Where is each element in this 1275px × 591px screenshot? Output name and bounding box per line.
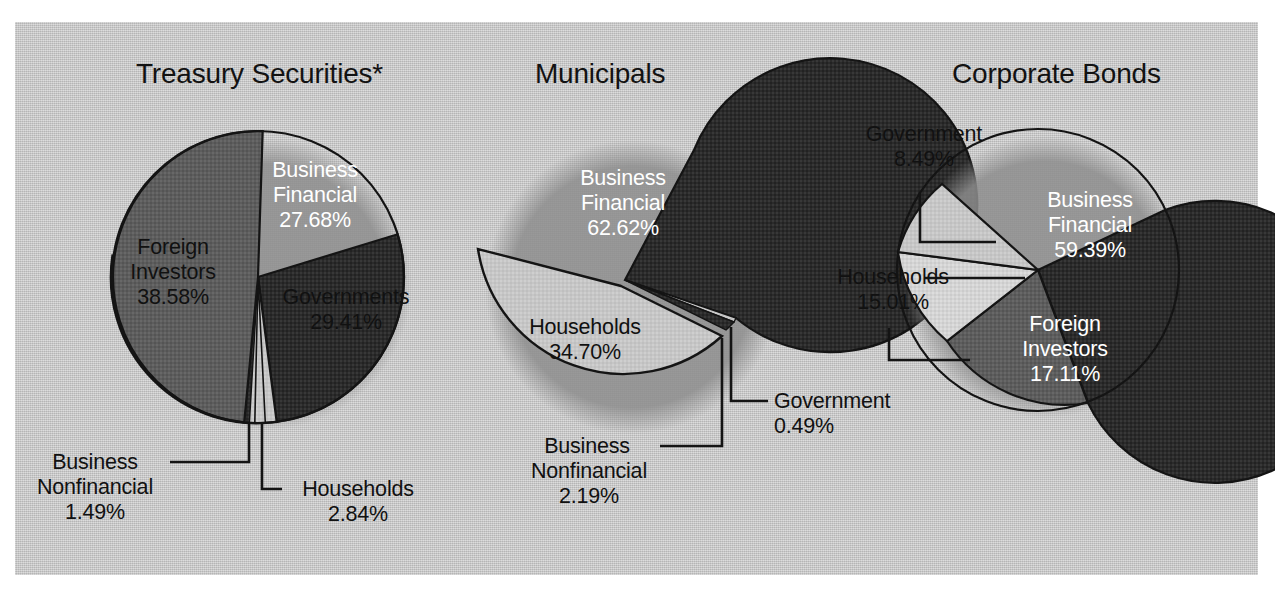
callout-label-value: 2.84% [288, 502, 428, 527]
slice-label-line1: Business [548, 166, 698, 191]
callout-label-line1: Government [844, 122, 1004, 147]
chart-title-municipals: Municipals [535, 58, 725, 90]
callout-label-value: 15.01% [818, 290, 968, 315]
slice-label-line1: Business [240, 158, 390, 183]
slice-label-business-financial: Business Financial 62.62% [548, 166, 698, 241]
callout-label-value: 2.19% [514, 484, 664, 509]
callout-label-households: Households 2.84% [288, 477, 428, 527]
slice-label-business-financial: Business Financial 59.39% [1015, 188, 1165, 263]
callout-label-households: Households 15.01% [818, 265, 968, 315]
callout-label-business-nonfinancial: Business Nonfinancial 1.49% [20, 450, 170, 525]
slice-label-line1: Foreign [1000, 312, 1130, 337]
slice-label-households: Households 34.70% [505, 315, 665, 365]
callout-label-value: 0.49% [774, 414, 944, 439]
chart-title-corporate-bonds: Corporate Bonds [952, 58, 1182, 90]
slice-label-line2: Financial [1015, 213, 1165, 238]
slice-label-governments: Governments 29.41% [266, 285, 426, 335]
slice-label-line2: Financial [548, 191, 698, 216]
chart-title-treasury-securities: Treasury Securities* [136, 58, 386, 90]
callout-label-line2: Nonfinancial [20, 475, 170, 500]
slice-label-line2: Investors [108, 260, 238, 285]
slice-label-value: 59.39% [1015, 238, 1165, 263]
slice-label-value: 62.62% [548, 216, 698, 241]
slice-label-value: 29.41% [266, 310, 426, 335]
slice-label-line1: Households [505, 315, 665, 340]
callout-label-government: Government 0.49% [774, 389, 944, 439]
slice-label-line1: Business [1015, 188, 1165, 213]
callout-label-value: 8.49% [844, 147, 1004, 172]
slice-label-line1: Foreign [108, 235, 238, 260]
figure-canvas: Treasury Securities* Municipals Corporat… [0, 0, 1275, 591]
callout-label-government: Government 8.49% [844, 122, 1004, 172]
slice-label-value: 17.11% [1000, 362, 1130, 387]
callout-label-line2: Nonfinancial [514, 459, 664, 484]
slice-label-foreign-investors: Foreign Investors 38.58% [108, 235, 238, 310]
callout-label-line1: Business [20, 450, 170, 475]
slice-label-value: 34.70% [505, 340, 665, 365]
callout-label-line1: Business [514, 434, 660, 459]
slice-label-line2: Investors [1000, 337, 1130, 362]
slice-label-line1: Governments [266, 285, 426, 310]
slice-label-value: 27.68% [240, 208, 390, 233]
callout-label-line1: Households [818, 265, 968, 290]
callout-label-business-nonfinancial: Business Nonfinancial 2.19% [514, 434, 664, 509]
slice-label-line2: Financial [240, 183, 390, 208]
slice-label-business-financial: Business Financial 27.68% [240, 158, 390, 233]
callout-label-line1: Government [774, 389, 944, 414]
slice-label-foreign-investors: Foreign Investors 17.11% [1000, 312, 1130, 387]
slice-label-value: 38.58% [108, 285, 238, 310]
callout-label-line1: Households [288, 477, 428, 502]
callout-label-value: 1.49% [20, 500, 170, 525]
